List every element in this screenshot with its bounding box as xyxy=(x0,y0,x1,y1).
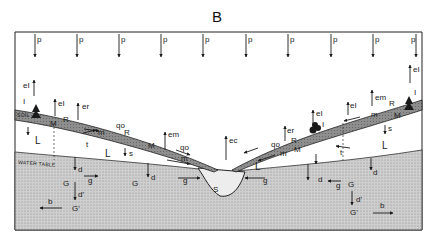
svg-text:em: em xyxy=(168,130,179,139)
svg-text:p: p xyxy=(121,35,126,44)
svg-text:qo: qo xyxy=(271,140,280,149)
svg-text:I: I xyxy=(322,120,324,129)
groundwater-label: G xyxy=(132,179,138,188)
unsaturated-zone-label: L xyxy=(105,148,111,159)
svg-text:m: m xyxy=(181,154,188,163)
svg-text:eI: eI xyxy=(23,81,30,90)
svg-text:b: b xyxy=(48,197,53,206)
svg-text:g: g xyxy=(263,176,267,185)
panel-label: B xyxy=(212,8,222,25)
svg-text:d: d xyxy=(373,168,377,177)
soil-label: SOIL xyxy=(17,112,30,118)
svg-text:g: g xyxy=(183,176,187,185)
svg-text:I: I xyxy=(23,97,25,106)
svg-text:M: M xyxy=(50,119,57,128)
svg-text:t: t xyxy=(340,148,343,157)
precipitation-arrows xyxy=(35,34,416,57)
svg-text:qo: qo xyxy=(180,143,189,152)
tree-icon xyxy=(31,104,41,118)
svg-text:R: R xyxy=(291,136,297,145)
svg-text:qo: qo xyxy=(116,121,125,130)
shrub-icon xyxy=(310,122,322,134)
svg-text:p: p xyxy=(375,35,380,44)
svg-text:g: g xyxy=(88,176,92,185)
svg-text:em: em xyxy=(375,93,386,102)
unsaturated-zone-label: L xyxy=(382,140,388,151)
svg-text:t: t xyxy=(86,140,89,149)
svg-text:p: p xyxy=(411,35,416,44)
groundwater-label: G xyxy=(63,179,69,188)
svg-text:p: p xyxy=(333,35,338,44)
svg-text:d: d xyxy=(78,165,82,174)
svg-text:p: p xyxy=(290,35,295,44)
svg-text:R: R xyxy=(63,115,69,124)
svg-text:p: p xyxy=(248,35,253,44)
svg-text:er: er xyxy=(82,102,89,111)
channel-evaporation-label: ec xyxy=(229,136,237,145)
svg-text:er: er xyxy=(287,126,294,135)
svg-text:d': d' xyxy=(356,195,362,204)
svg-text:m: m xyxy=(371,110,378,119)
precipitation-labels: p p p p p p p p p p xyxy=(37,35,416,44)
unsaturated-zone-label: L xyxy=(255,161,261,172)
svg-text:R: R xyxy=(389,99,395,108)
hydrologic-cycle-diagram: B S p p p p p p p p p p SOIL W xyxy=(0,0,437,240)
svg-text:d: d xyxy=(151,173,155,182)
svg-text:m: m xyxy=(98,128,105,137)
groundwater-label: G xyxy=(348,180,354,189)
stream-label: S xyxy=(213,185,218,194)
svg-text:s: s xyxy=(388,124,392,133)
svg-text:M: M xyxy=(394,111,401,120)
svg-text:eI: eI xyxy=(413,65,420,74)
unsaturated-zone-label: L xyxy=(35,135,41,146)
svg-text:g: g xyxy=(336,181,340,190)
svg-text:I: I xyxy=(414,88,416,97)
deep-groundwater-label: G' xyxy=(350,208,358,217)
svg-text:eI: eI xyxy=(58,99,65,108)
svg-text:M: M xyxy=(294,145,301,154)
svg-text:p: p xyxy=(163,35,168,44)
svg-text:d: d xyxy=(318,175,322,184)
svg-text:b: b xyxy=(380,201,385,210)
tree-icon xyxy=(404,96,414,110)
svg-text:p: p xyxy=(205,35,210,44)
svg-text:eI: eI xyxy=(316,109,323,118)
svg-text:M: M xyxy=(148,141,155,150)
svg-text:eI: eI xyxy=(350,101,357,110)
svg-text:m: m xyxy=(280,149,287,158)
svg-text:p: p xyxy=(79,35,84,44)
svg-text:p: p xyxy=(37,35,42,44)
svg-text:s: s xyxy=(129,149,133,158)
deep-groundwater-label: G' xyxy=(72,204,80,213)
svg-text:d': d' xyxy=(78,190,84,199)
